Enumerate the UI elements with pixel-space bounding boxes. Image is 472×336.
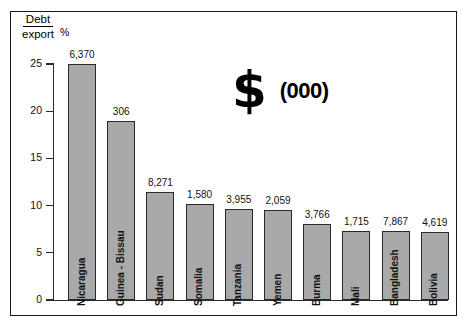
y-tick-label-20: 20: [16, 104, 42, 116]
chart-figure: Debt export % $ (000) 0510152025 6,370Ni…: [0, 0, 472, 336]
y-axis-line: [53, 64, 54, 301]
bar-category-label: Yemen: [272, 274, 283, 306]
y-tick-label-25: 25: [16, 57, 42, 69]
bar-category-label: Guinea - Bissau: [115, 230, 126, 306]
bar-category-label: Mali: [350, 287, 361, 306]
y-tick-label-10: 10: [16, 199, 42, 211]
plot-area: 0510152025 6,370Nicaragua306Guinea - Bis…: [0, 0, 472, 336]
bar-category-label: Somalia: [193, 268, 204, 306]
y-tick-5: [46, 252, 54, 253]
bar-value-label: 2,059: [255, 195, 301, 206]
bar-value-label: 306: [98, 106, 144, 117]
bar-category-label: Bolivia: [428, 273, 439, 306]
bar-category-label: Sudan: [154, 275, 165, 306]
y-tick-label-0: 0: [16, 293, 42, 305]
bar-value-label: 6,370: [59, 49, 105, 60]
bar-category-label: Burma: [311, 274, 322, 306]
y-tick-0: [46, 299, 54, 300]
y-tick-label-15: 15: [16, 151, 42, 163]
y-tick-25: [46, 63, 54, 64]
y-tick-20: [46, 111, 54, 112]
y-tick-10: [46, 205, 54, 206]
bar-category-label: Tanzania: [232, 264, 243, 306]
y-tick-15: [46, 158, 54, 159]
bar-value-label: 4,619: [412, 217, 458, 228]
bar-category-label: Bangladesh: [389, 249, 400, 306]
bar-category-label: Nicaragua: [76, 258, 87, 306]
y-tick-label-5: 5: [16, 246, 42, 258]
bar-value-label: 8,271: [137, 177, 183, 188]
